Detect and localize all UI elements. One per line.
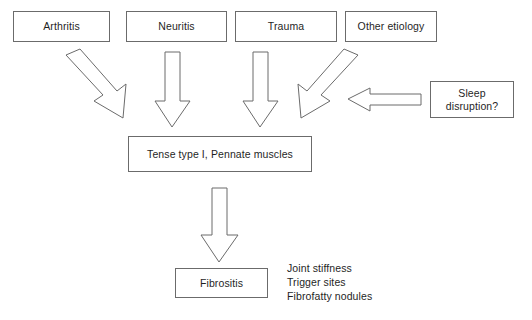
arrow-neuritis-to-muscles (155, 52, 190, 127)
etiology-box-trauma-label: Trauma (268, 20, 304, 33)
arrow-muscles-to-fibrositis (201, 188, 238, 262)
symptom-item-joint-stiffness: Joint stiffness (287, 261, 372, 275)
etiology-box-other-etiology[interactable]: Other etiology (345, 11, 437, 42)
etiology-box-arthritis[interactable]: Arthritis (13, 11, 110, 42)
etiology-box-arthritis-label: Arthritis (43, 20, 80, 33)
arrow-trauma-to-muscles (243, 52, 278, 127)
outcome-box-fibrositis[interactable]: Fibrositis (175, 268, 268, 298)
etiology-box-trauma[interactable]: Trauma (235, 11, 337, 42)
intermediate-box-tense-muscles-label: Tense type I, Pennate muscles (147, 148, 293, 161)
etiology-box-neuritis-label: Neuritis (158, 20, 194, 33)
etiology-box-neuritis[interactable]: Neuritis (126, 11, 227, 42)
symptom-item-fibrofatty-nodules: Fibrofatty nodules (287, 289, 372, 303)
intermediate-box-tense-muscles[interactable]: Tense type I, Pennate muscles (128, 136, 312, 172)
arrow-other-etiology-to-muscles (298, 49, 358, 118)
arrow-arthritis-to-muscles (66, 49, 126, 118)
arrow-sleep-disruption-to-muscles (348, 88, 421, 111)
flow-diagram-canvas: Arthritis Neuritis Trauma Other etiology… (0, 0, 532, 320)
symptom-list: Joint stiffness Trigger sites Fibrofatty… (287, 261, 372, 303)
modifier-box-sleep-disruption[interactable]: Sleep disruption? (430, 81, 514, 118)
etiology-box-other-etiology-label: Other etiology (358, 20, 425, 33)
symptom-item-trigger-sites: Trigger sites (287, 275, 372, 289)
outcome-box-fibrositis-label: Fibrositis (200, 277, 243, 290)
modifier-box-sleep-disruption-label: Sleep disruption? (446, 87, 498, 113)
